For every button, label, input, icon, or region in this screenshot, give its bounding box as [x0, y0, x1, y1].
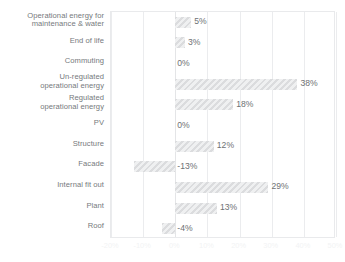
- category-label: PV: [0, 119, 104, 128]
- category-label: Facade: [0, 160, 104, 169]
- category-label-line: End of life: [0, 37, 104, 46]
- x-tick-label: -20%: [101, 241, 118, 251]
- category-label-line: Commuting: [0, 57, 104, 66]
- x-tick-label: 50%: [328, 241, 343, 251]
- x-tick-label: 30%: [263, 241, 278, 251]
- category-label-line: PV: [0, 119, 104, 128]
- x-tick-label: 0%: [169, 241, 180, 251]
- bar: [175, 79, 297, 90]
- bar: [175, 141, 214, 152]
- bars-layer: [111, 12, 334, 237]
- category-label: Plant: [0, 202, 104, 211]
- category-label: Regulatedoperational energy: [0, 94, 104, 112]
- category-label: Structure: [0, 140, 104, 149]
- bar: [162, 223, 175, 234]
- x-axis: -20%-10%0%10%20%30%40%50%: [110, 241, 335, 255]
- gridline-50: [336, 12, 337, 237]
- category-axis: Operational energy formaintenance & wate…: [0, 10, 104, 238]
- category-label: Roof: [0, 222, 104, 231]
- x-tick-label: 20%: [231, 241, 246, 251]
- bar: [175, 182, 268, 193]
- category-label-line: Facade: [0, 160, 104, 169]
- category-label-line: operational energy: [0, 82, 104, 91]
- bar: [134, 161, 176, 172]
- bar: [175, 203, 217, 214]
- x-tick-label: 10%: [199, 241, 214, 251]
- category-label: Commuting: [0, 57, 104, 66]
- x-tick-label: 40%: [295, 241, 310, 251]
- category-label-line: Structure: [0, 140, 104, 149]
- category-label-line: Internal fit out: [0, 181, 104, 190]
- bar-chart: Operational energy formaintenance & wate…: [0, 0, 345, 262]
- bar: [175, 17, 191, 28]
- category-label: Un-regulatedoperational energy: [0, 73, 104, 91]
- category-label: End of life: [0, 37, 104, 46]
- category-label-line: operational energy: [0, 103, 104, 112]
- category-label-line: Roof: [0, 222, 104, 231]
- bar: [175, 37, 185, 48]
- plot-area: [110, 11, 335, 238]
- bar: [175, 99, 233, 110]
- x-tick-label: -10%: [134, 241, 151, 251]
- category-label-line: maintenance & water: [0, 20, 104, 29]
- category-label: Operational energy formaintenance & wate…: [0, 12, 104, 30]
- category-label: Internal fit out: [0, 181, 104, 190]
- category-label-line: Plant: [0, 202, 104, 211]
